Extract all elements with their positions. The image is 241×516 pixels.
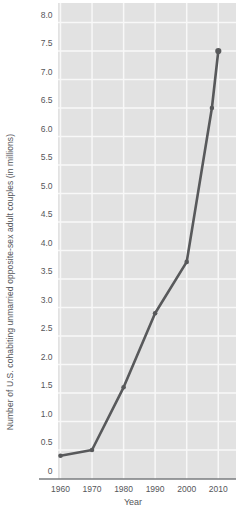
y-tick-label: 4.5 [41, 209, 53, 219]
x-tick-label: 1980 [114, 484, 133, 494]
y-tick-label: 2.5 [41, 323, 53, 333]
cohabitation-line-chart: Number of U.S. cohabiting unmarried oppo… [0, 0, 241, 516]
data-point [153, 311, 158, 316]
data-point [184, 260, 189, 265]
y-tick-label: 8.0 [41, 10, 53, 20]
y-tick-label: 4.0 [41, 238, 53, 248]
y-tick-label: 0.5 [41, 437, 53, 447]
data-point [121, 385, 126, 390]
y-tick-label: 3.5 [41, 266, 53, 276]
data-point [90, 448, 95, 453]
x-tick-label: 2000 [177, 484, 196, 494]
data-point [210, 106, 215, 111]
y-tick-label: 7.5 [41, 38, 53, 48]
y-tick-label: 6.0 [41, 124, 53, 134]
x-tick-label: 1960 [51, 484, 70, 494]
data-point [58, 453, 63, 458]
y-tick-label: 0 [48, 466, 53, 476]
x-tick-label: 1990 [146, 484, 165, 494]
y-tick-label: 7.0 [41, 67, 53, 77]
x-tick-label: 1970 [83, 484, 102, 494]
x-axis-title: Year [124, 497, 142, 507]
plot-panel [58, 3, 236, 479]
data-point [215, 48, 221, 54]
x-tick-label: 2010 [209, 484, 228, 494]
plot-area: 00.51.01.52.02.53.03.54.04.55.05.56.06.5… [0, 0, 241, 516]
y-tick-label: 3.0 [41, 295, 53, 305]
plot-background [58, 3, 236, 479]
y-tick-label: 1.5 [41, 380, 53, 390]
y-tick-label: 6.5 [41, 95, 53, 105]
y-tick-label: 2.0 [41, 352, 53, 362]
y-tick-label: 5.0 [41, 181, 53, 191]
y-tick-label: 1.0 [41, 409, 53, 419]
y-tick-label: 5.5 [41, 152, 53, 162]
